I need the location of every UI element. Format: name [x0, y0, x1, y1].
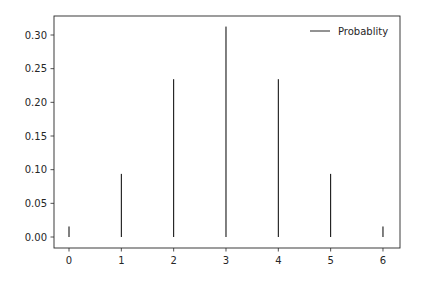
- x-tick-label: 1: [118, 255, 124, 266]
- plot-area: [69, 27, 383, 237]
- y-tick-label: 0.05: [25, 198, 47, 209]
- x-tick-label: 3: [223, 255, 229, 266]
- legend-label: Probablity: [338, 26, 388, 37]
- y-tick-label: 0.00: [25, 232, 47, 243]
- x-tick-label: 4: [275, 255, 281, 266]
- y-axis: 0.000.050.100.150.200.250.30: [25, 30, 54, 243]
- axes-frame: [54, 16, 400, 248]
- y-tick-label: 0.20: [25, 97, 47, 108]
- x-tick-label: 5: [327, 255, 333, 266]
- x-axis: 0123456: [66, 248, 386, 266]
- x-tick-label: 0: [66, 255, 72, 266]
- y-tick-label: 0.10: [25, 164, 47, 175]
- y-tick-label: 0.30: [25, 30, 47, 41]
- y-tick-label: 0.25: [25, 63, 47, 74]
- x-tick-label: 2: [170, 255, 176, 266]
- x-tick-label: 6: [380, 255, 386, 266]
- y-tick-label: 0.15: [25, 131, 47, 142]
- chart-canvas: 0.000.050.100.150.200.250.30 0123456 Pro…: [0, 0, 422, 282]
- legend: Probablity: [310, 26, 388, 37]
